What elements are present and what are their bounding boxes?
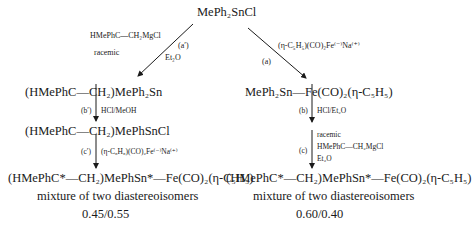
step-a-label: (a) (262, 58, 271, 66)
starting-material: MePh₂SnCl (197, 6, 256, 19)
left-final-product: (HMePhC*—CH₂)MePhSn*—Fe(CO)₂(η-C₅H₅) (8, 172, 254, 185)
right-product-1: MePh₂Sn—Fe(CO)₂(η-C₅H₅) (245, 86, 393, 99)
step-b-prime-label: (b′) (81, 107, 91, 115)
step-b-prime-reagent: HCl/MeOH (101, 107, 136, 115)
left-reagent-note: racemic (94, 49, 119, 57)
step-a-prime-solvent: Et₂O (165, 54, 181, 62)
step-c-prime-reagent: (η-C₅H₅)(CO)₂Fe⁽⁻⁾Na⁽⁺⁾ (101, 148, 178, 156)
step-c-label: (c) (299, 147, 307, 155)
step-a-prime-label: (a′) (178, 42, 189, 50)
step-c-solvent: Et₂O (317, 155, 332, 163)
step-c-note: racemic (317, 131, 341, 139)
right-final-product: (HMePhC*—CH₂)MePhSn*—Fe(CO)₂(η-C₅H₅) (226, 172, 472, 185)
left-product-2: (HMePhC—CH₂)MePhSnCl (25, 125, 170, 138)
step-a-reagent: (η-C₅H₅)(CO)₂Fe⁽⁻⁾Na⁽⁺⁾ (278, 42, 360, 50)
arrow-a (248, 28, 306, 78)
step-c-prime-label: (c′) (81, 148, 91, 156)
step-b-reagent: HCl/Et₂O (317, 107, 346, 115)
right-ratio: 0.60/0.40 (296, 208, 343, 221)
left-ratio: 0.45/0.55 (82, 208, 129, 221)
left-product-1: (HMePhC—CH₂)MePh₂Sn (25, 86, 162, 99)
step-b-label: (b) (299, 107, 308, 115)
step-c-reagent: HMePhC—CH₂MgCl (317, 143, 383, 151)
right-result-note: mixture of two diastereoisomers (253, 190, 414, 203)
left-result-note: mixture of two diastereoisomers (37, 190, 198, 203)
left-reagent: HMePhC—CH₂MgCl (90, 32, 161, 40)
